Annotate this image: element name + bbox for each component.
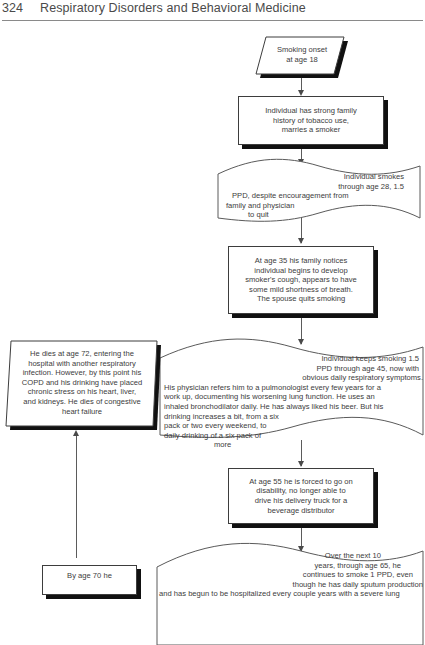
node-smoking-onset[interactable]: Smoking onset at age 18: [256, 37, 348, 78]
node-smokes-through-45-line-6: inhaled bronchodilator daily. He has alw…: [158, 402, 425, 412]
node-smoking-onset-text: Smoking onset at age 18: [262, 45, 342, 64]
node-next-10-years-line-5: and has begun to be hospitalized every c…: [155, 589, 425, 599]
node-family-history-text: Individual has strong family history of …: [265, 106, 357, 135]
node-next-10-years-line-2: years, through age 65, he: [155, 561, 425, 571]
node-smokes-through-45-line-3: obvious daily respiratory symptoms.: [158, 373, 425, 383]
node-smokes-through-28[interactable]: Individual smokes through age 28, 1.5 PP…: [216, 160, 422, 232]
node-dies-at-72[interactable]: He dies at age 72, entering the hospital…: [6, 341, 161, 430]
node-smokes-through-45-line-9: daily drinking of a six pack of: [158, 431, 425, 441]
node-smokes-through-45-line-4: His physician refers him to a pulmonolog…: [158, 383, 425, 393]
node-age-35-cough[interactable]: At age 35 his family notices individual …: [228, 246, 374, 314]
node-next-10-years-line-1: Over the next 10: [155, 551, 425, 561]
node-age-55-disability-text: At age 55 he is forced to go on disabili…: [249, 477, 352, 515]
header-rule: [2, 20, 423, 21]
node-smokes-through-28-line-5: to quit: [216, 210, 422, 220]
conn-smokes28-to-age35-arrowhead: [298, 238, 304, 244]
node-smokes-through-45-line-5: work up, documenting his worsening lung …: [158, 392, 425, 402]
node-next-10-years-line-4: though he has daily sputum production: [155, 580, 425, 590]
page-header: 324 Respiratory Disorders and Behavioral…: [0, 0, 425, 26]
node-dies-at-72-text: He dies at age 72, entering the hospital…: [14, 349, 150, 416]
node-smokes-through-45-line-8: pack or two every weekend, to: [158, 421, 425, 431]
node-age-55-disability[interactable]: At age 55 he is forced to go on disabili…: [228, 468, 374, 524]
node-smokes-through-45-line-10: more: [158, 440, 425, 450]
conn-smokes45-to-age55-arrowhead: [298, 461, 304, 467]
node-smokes-through-45-line-7: drinking increases a bit, from a six: [158, 412, 425, 422]
node-smokes-through-28-line-2: through age 28, 1.5: [216, 182, 422, 192]
node-smokes-through-45-line-2: PPD through age 45, now with: [158, 364, 425, 374]
conn-age70-to-dies72-arrowhead: [73, 430, 79, 436]
conn-age70-to-dies72: [76, 436, 77, 558]
node-next-10-years-line-3: continues to smoke 1 PPD, even: [155, 570, 425, 580]
node-by-age-70-text: By age 70 he: [42, 571, 137, 581]
node-by-age-70[interactable]: By age 70 he: [42, 565, 137, 595]
node-family-history[interactable]: Individual has strong family history of …: [238, 96, 384, 145]
page-number: 324: [2, 1, 23, 15]
node-smokes-through-45-line-1: Individual keeps smoking 1.5: [158, 354, 425, 364]
running-head-title: Respiratory Disorders and Behavioral Med…: [40, 1, 306, 15]
node-smokes-through-28-line-4: family and physician: [216, 201, 422, 211]
node-smokes-through-28-line-1: Individual smokes: [216, 172, 422, 182]
node-smokes-through-28-line-3: PPD, despite encouragement from: [216, 191, 422, 201]
node-smokes-through-45[interactable]: Individual keeps smoking 1.5 PPD through…: [158, 340, 425, 453]
node-age-35-cough-text: At age 35 his family notices individual …: [245, 256, 357, 304]
node-next-10-years[interactable]: Over the next 10 years, through age 65, …: [155, 545, 425, 645]
